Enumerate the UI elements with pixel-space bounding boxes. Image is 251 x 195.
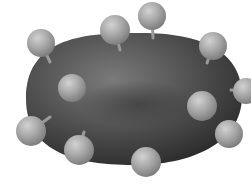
antigen-sphere: [187, 91, 217, 121]
antigen-sphere: [58, 74, 86, 102]
antigen-sphere: [131, 147, 161, 177]
antigen-sphere: [64, 135, 94, 165]
antigen-sphere: [199, 32, 227, 60]
cell-dimple: [80, 81, 199, 127]
antigen-sphere: [138, 2, 166, 30]
antigen-sphere: [27, 29, 55, 57]
red-blood-cell-illustration: [0, 0, 251, 195]
antigen-sphere: [215, 120, 243, 148]
antigen-sphere: [16, 116, 46, 146]
antigen-sphere: [100, 15, 130, 45]
